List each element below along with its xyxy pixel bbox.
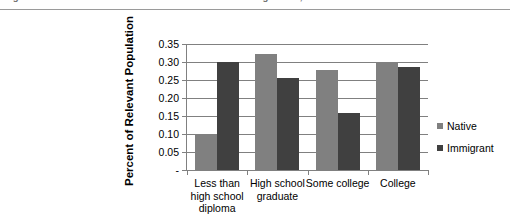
y-tick-mark [182,98,186,99]
y-tick-mark [182,152,186,153]
y-tick-label: 0.05 [159,147,179,158]
bar-immigrant [398,67,420,170]
page-top-caption-strip: Figure 5. Educational Attainment of the … [0,0,510,9]
y-tick-label: 0.30 [159,57,179,68]
legend-label: Native [447,120,477,132]
y-tick-label: - [176,165,180,176]
legend-item[interactable]: Immigrant [437,140,494,156]
square-swatch-icon [437,145,443,151]
y-axis-title: Percent of Relevant Population [121,28,137,186]
bar-native [195,135,217,170]
bar-group [308,44,368,170]
x-category-label: College [365,177,431,190]
legend-item[interactable]: Native [437,118,494,134]
y-tick-mark [182,116,186,117]
bar-group [247,44,307,170]
y-tick-mark [182,134,186,135]
figure-caption-text: Figure 5. Educational Attainment of the … [4,0,327,2]
x-tick-mark [428,171,429,175]
bar-native [255,54,277,170]
y-tick-mark [182,44,186,45]
y-tick-label: 0.10 [159,129,179,140]
bar-native [376,62,398,170]
bar-immigrant [217,62,239,170]
bar-group [368,44,428,170]
bar-group [187,44,247,170]
x-tick-mark [247,171,248,175]
x-category-label: Some college [305,177,371,190]
x-category-label: Less than high school diploma [184,177,250,212]
y-tick-label: 0.25 [159,75,179,86]
bar-immigrant [277,78,299,170]
y-tick-label: 0.15 [159,111,179,122]
legend-label: Immigrant [447,142,494,154]
y-tick-label: 0.35 [159,39,179,50]
x-tick-mark [187,171,188,175]
x-category-label: High school graduate [244,177,310,202]
plot-area: 0.350.300.250.200.150.100.05- [186,44,428,170]
y-tick-mark [182,80,186,81]
square-swatch-icon [437,123,443,129]
x-tick-mark [308,171,309,175]
bar-immigrant [338,113,360,170]
y-tick-label: 0.20 [159,93,179,104]
bar-native [316,70,338,170]
bars-layer [187,44,428,170]
chart-legend: NativeImmigrant [437,118,494,162]
bar-chart-figure: Percent of Relevant Population 0.350.300… [0,10,510,212]
x-tick-mark [368,171,369,175]
y-tick-mark [182,62,186,63]
